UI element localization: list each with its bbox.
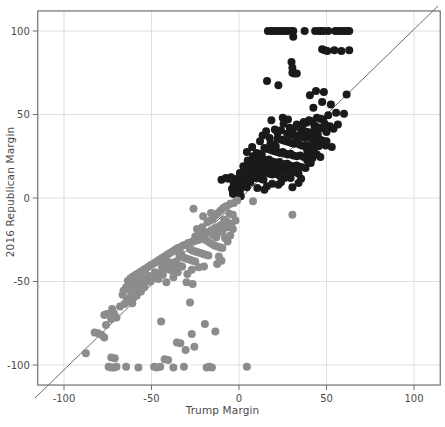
data-point — [147, 278, 155, 286]
data-point — [200, 262, 208, 270]
data-point — [262, 127, 270, 135]
data-point — [211, 328, 219, 336]
data-point — [316, 153, 324, 161]
data-point — [307, 159, 315, 167]
data-point — [201, 320, 209, 328]
data-point — [324, 27, 332, 35]
data-point — [188, 266, 196, 274]
data-point — [243, 183, 251, 191]
data-point — [128, 299, 136, 307]
data-point — [193, 225, 201, 233]
data-point — [293, 70, 301, 78]
data-point — [232, 217, 240, 225]
data-point — [323, 47, 331, 55]
data-point — [182, 346, 190, 354]
data-point — [190, 343, 198, 351]
data-point — [306, 91, 314, 99]
data-point — [218, 176, 226, 184]
data-point — [119, 291, 127, 299]
data-point — [160, 260, 168, 268]
data-point — [157, 318, 165, 326]
data-point — [102, 321, 110, 329]
data-point — [318, 98, 326, 106]
data-point — [330, 46, 338, 54]
data-point — [209, 231, 217, 239]
data-point — [308, 149, 316, 157]
data-point — [243, 363, 251, 371]
x-axis-label: Trump Margin — [0, 404, 445, 416]
data-point — [224, 237, 232, 245]
data-point — [172, 257, 180, 265]
data-point — [164, 356, 172, 364]
data-point — [162, 278, 170, 286]
data-point — [122, 363, 130, 371]
y-axis-label: 2016 Republican Margin — [4, 22, 16, 362]
x-tick-label: -50 — [143, 393, 159, 404]
data-point — [295, 179, 303, 187]
data-point — [133, 278, 141, 286]
data-point — [169, 364, 177, 372]
data-point — [141, 283, 149, 291]
data-point — [327, 100, 335, 108]
data-point — [337, 47, 345, 55]
data-point — [274, 81, 282, 89]
data-point — [320, 88, 328, 96]
data-point — [111, 354, 119, 362]
data-point — [340, 110, 348, 118]
data-point — [289, 33, 297, 41]
data-point — [156, 363, 164, 371]
data-point — [249, 197, 257, 205]
data-point — [180, 363, 188, 371]
data-point — [315, 142, 323, 150]
data-point — [213, 260, 221, 268]
data-point — [263, 182, 271, 190]
x-tick-label: 0 — [236, 393, 242, 404]
data-point — [309, 104, 317, 112]
data-point — [189, 280, 197, 288]
data-point — [108, 305, 116, 313]
data-point — [134, 364, 142, 372]
data-point — [207, 209, 215, 217]
data-point — [186, 298, 194, 306]
data-point — [176, 339, 184, 347]
data-point — [343, 90, 351, 98]
data-point — [208, 364, 216, 372]
data-point — [284, 116, 292, 124]
data-point — [100, 333, 108, 341]
data-point — [345, 27, 353, 35]
data-point — [243, 148, 251, 156]
data-point — [328, 143, 336, 151]
data-point — [332, 109, 340, 117]
x-tick-label: -100 — [53, 393, 76, 404]
data-point — [113, 363, 121, 371]
data-point — [177, 250, 185, 258]
data-point — [253, 184, 261, 192]
data-point — [334, 121, 342, 129]
data-point — [277, 126, 285, 134]
data-point — [218, 244, 226, 252]
data-point — [274, 181, 282, 189]
y-tick-label: 0 — [23, 193, 29, 204]
data-point — [345, 46, 353, 54]
data-point — [311, 135, 319, 143]
data-point — [188, 330, 196, 338]
x-tick-label: 100 — [404, 393, 423, 404]
data-point — [288, 211, 296, 219]
data-point — [82, 349, 90, 357]
data-point — [190, 205, 198, 213]
y-axis-label-container: 2016 Republican Margin — [0, 0, 22, 390]
data-point — [267, 116, 275, 124]
data-point — [263, 77, 271, 85]
data-point — [204, 252, 212, 260]
plot-area: -100-50050100-100-50050100 — [0, 0, 445, 427]
data-point — [100, 311, 108, 319]
data-point — [295, 170, 303, 178]
x-tick-label: 50 — [320, 393, 333, 404]
data-point — [174, 268, 182, 276]
data-point — [155, 275, 163, 283]
data-point — [301, 27, 309, 35]
scatter-chart: -100-50050100-100-50050100 2016 Republic… — [0, 0, 445, 427]
data-point — [116, 303, 124, 311]
